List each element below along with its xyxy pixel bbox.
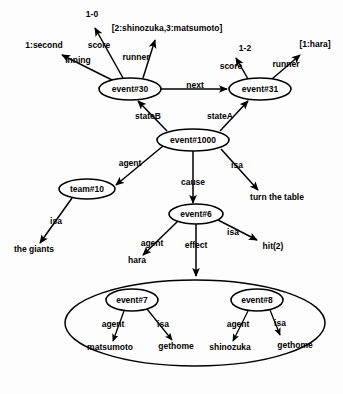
value-score-1-0: 1-0 [86, 9, 99, 19]
diagram-canvas: event#30 event#31 event#1000 team#10 eve… [0, 0, 343, 394]
edge-label-agent-event8: agent [227, 319, 250, 329]
value-gethome-event8: gethome [277, 340, 313, 350]
node-event31[interactable]: event#31 [229, 78, 291, 100]
edge-label-stateA: stateA [207, 111, 233, 121]
edge-label-isa-event6: isa [227, 227, 239, 237]
value-score-1-2: 1-2 [239, 43, 252, 53]
edge-label-isa-event8: isa [274, 318, 286, 328]
edge-label-agent-event6: agent [141, 238, 164, 248]
value-hit-2: hit(2) [263, 241, 284, 251]
value-turn-the-table: turn the table [250, 192, 304, 202]
edge-label-isa-team10: isa [50, 216, 62, 226]
edge-label-score-event31: score [220, 61, 243, 71]
node-team10[interactable]: team#10 [59, 179, 115, 199]
edge-score-event30 [95, 28, 123, 78]
edge-label-runner-event31: runner [273, 59, 301, 69]
edge-label-next: next [186, 80, 204, 90]
edge-label-effect: effect [185, 240, 208, 250]
edge-label-isa-event1000: isa [231, 160, 243, 170]
value-the-giants: the giants [14, 244, 54, 254]
edge-label-agent-event7: agent [102, 319, 125, 329]
edge-label-score-event30: score [88, 40, 111, 50]
node-event30[interactable]: event#30 [99, 78, 161, 100]
edge-label-cause: cause [181, 177, 205, 187]
node-label: event#7 [116, 295, 148, 305]
semantic-network-diagram: event#30 event#31 event#1000 team#10 eve… [0, 0, 343, 394]
value-hara: hara [128, 255, 146, 265]
edge-label-isa-event7: isa [157, 319, 169, 329]
node-label: team#10 [70, 184, 104, 194]
value-shinozuka: shinozuka [209, 342, 251, 352]
node-label: event#8 [241, 295, 273, 305]
node-label: event#6 [180, 209, 212, 219]
edge-label-stateB: stateB [135, 111, 161, 121]
node-label: event#30 [112, 84, 149, 94]
value-runner-list-30: [2:shinozuka,3:matsumoto] [112, 23, 223, 33]
value-gethome-event7: gethome [158, 341, 194, 351]
node-label: event#31 [242, 84, 279, 94]
edge-label-inning: inning [65, 55, 91, 65]
value-inning-second: 1:second [25, 40, 62, 50]
node-event7[interactable]: event#7 [106, 289, 158, 311]
node-event6[interactable]: event#6 [169, 204, 223, 224]
edge-label-runner-event30: runner [123, 52, 151, 62]
edge-label-agent-event1000: agent [119, 158, 142, 168]
node-event8[interactable]: event#8 [231, 289, 283, 311]
value-runner-list-31: [1:hara] [299, 39, 330, 49]
node-event1000[interactable]: event#1000 [157, 129, 229, 151]
value-matsumoto: matsumoto [87, 342, 133, 352]
node-label: event#1000 [170, 135, 216, 145]
